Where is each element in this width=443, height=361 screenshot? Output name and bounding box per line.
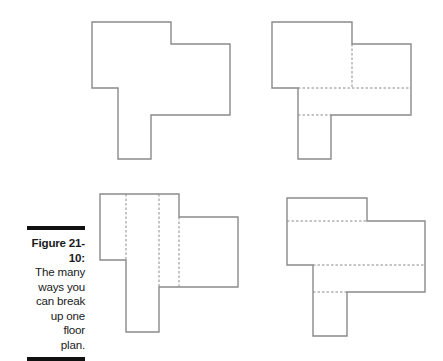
plan-outline [287, 198, 425, 336]
plan-strip-split [287, 198, 425, 336]
caption-text: Figure 21-10: The many ways you can brea… [27, 236, 85, 352]
caption-line: ways you [27, 280, 85, 295]
plan-outline [272, 22, 411, 159]
plan-outline [92, 22, 230, 159]
plan-vertical-split [100, 194, 238, 332]
plan-original [92, 22, 230, 159]
caption-bottom-bar [27, 357, 85, 361]
caption-line: The many [27, 265, 85, 280]
plan-horizontal-split [272, 22, 411, 159]
plan-outline [100, 194, 238, 332]
caption-line: up one floor [27, 309, 85, 338]
caption-top-bar [27, 226, 85, 230]
caption-line: plan. [27, 338, 85, 353]
caption-line: can break [27, 294, 85, 309]
figure-label: Figure 21-10: [27, 236, 85, 265]
figure-caption: Figure 21-10: The many ways you can brea… [27, 226, 85, 361]
